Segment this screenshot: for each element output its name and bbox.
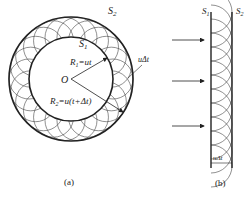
label-b-s2: S2	[236, 6, 244, 17]
caption-b: (b)	[215, 178, 226, 188]
label-s2: S2	[108, 5, 117, 18]
label-b-s1: S1	[202, 6, 210, 17]
figure-b-plane-wavefront: S1 S2 uΔt (b)	[172, 0, 244, 188]
huygens-principle-diagram: S2 S1 O R1=ut R2=u(t+Δt) uΔt (a) S1 S2 u…	[0, 0, 252, 197]
label-r1: R1=ut	[69, 57, 92, 68]
label-b-width: uΔt	[213, 154, 224, 162]
label-gap-udt: uΔt	[138, 55, 150, 64]
label-r2: R2=u(t+Δt)	[49, 96, 91, 107]
gap-leader-line	[128, 65, 142, 78]
label-center-o: O	[61, 74, 68, 85]
figure-a-spherical-wavefront: S2 S1 O R1=ut R2=u(t+Δt) uΔt (a)	[9, 5, 150, 187]
caption-a: (a)	[64, 177, 74, 187]
